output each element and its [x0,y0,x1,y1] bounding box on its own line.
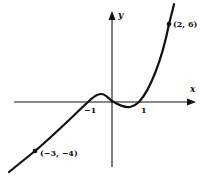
y-axis-arrow-icon [109,11,116,20]
y-axis-label: y [117,10,124,20]
x-axis-label: x [189,84,196,94]
function-graph: y x −1 1 (2, 6) (−3, −4) [0,0,206,183]
x-axis [14,99,196,106]
tick-label-pos1: 1 [141,105,147,115]
tick-label-neg1: −1 [84,105,96,115]
point-2-6-label: (2, 6) [173,19,197,29]
function-curve [9,4,174,172]
point-2-6-marker [167,22,172,27]
point-neg3-neg4-label: (−3, −4) [40,148,78,158]
point-neg3-neg4-marker [33,149,38,154]
y-axis [109,11,116,167]
x-axis-arrow-icon [187,99,196,106]
